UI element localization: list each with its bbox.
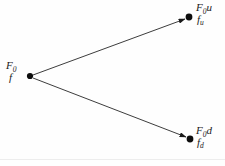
- tree-diagram-canvas: [0, 0, 225, 166]
- root-node-dot: [27, 73, 33, 79]
- up-node-dot: [186, 14, 193, 21]
- bottom-divider: [0, 159, 225, 160]
- down-branch-arrow: [33, 78, 186, 137]
- down-node-label: F0d fd: [196, 125, 212, 149]
- up-node-label: F0u fu: [196, 2, 212, 26]
- root-node-label: F0 f: [6, 60, 16, 84]
- up-branch-arrow: [33, 19, 185, 75]
- binomial-tree-figure: F0 f F0u fu F0d fd: [0, 0, 225, 166]
- down-node-dot: [187, 136, 194, 143]
